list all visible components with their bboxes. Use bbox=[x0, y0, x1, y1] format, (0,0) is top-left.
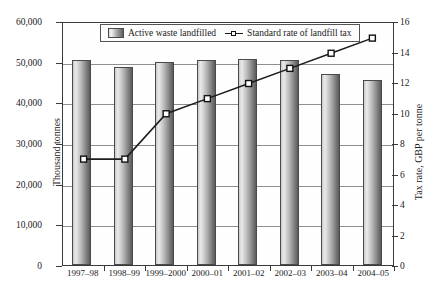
y2-axis-tick-label: 4 bbox=[400, 200, 430, 210]
bar-swatch-icon bbox=[108, 28, 124, 38]
y-axis-tick-mark bbox=[56, 225, 62, 226]
y-axis-tick-label: 50,000 bbox=[0, 58, 42, 68]
y2-axis-tick-label: 12 bbox=[400, 78, 430, 88]
y2-axis-tick-mark bbox=[392, 114, 398, 115]
y-axis-tick-label: 60,000 bbox=[0, 17, 42, 27]
line-marker bbox=[287, 65, 293, 71]
y-axis-tick-label: 40,000 bbox=[0, 98, 42, 108]
y-axis-tick-label: 30,000 bbox=[0, 139, 42, 149]
y2-axis-tick-label: 6 bbox=[400, 170, 430, 180]
x-axis-tick-mark bbox=[394, 266, 395, 271]
y2-axis-tick-mark bbox=[392, 236, 398, 237]
y-axis-tick-mark bbox=[56, 144, 62, 145]
line-square-icon bbox=[225, 29, 243, 37]
y2-axis-tick-label: 8 bbox=[400, 139, 430, 149]
y2-axis-tick-label: 16 bbox=[400, 17, 430, 27]
y2-axis-tick-mark bbox=[392, 83, 398, 84]
line-marker bbox=[163, 111, 169, 117]
legend-label-line: Standard rate of landfill tax bbox=[247, 28, 351, 38]
chart-legend: Active waste landfilled Standard rate of… bbox=[100, 24, 360, 42]
y2-axis-tick-label: 10 bbox=[400, 109, 430, 119]
line-marker bbox=[369, 35, 375, 41]
y2-axis-tick-mark bbox=[392, 175, 398, 176]
line-marker bbox=[204, 96, 210, 102]
y2-axis-tick-mark bbox=[392, 266, 398, 267]
y2-axis-tick-mark bbox=[392, 205, 398, 206]
y-axis-tick-mark bbox=[56, 63, 62, 64]
line-marker bbox=[122, 156, 128, 162]
y2-axis-tick-mark bbox=[392, 53, 398, 54]
y-axis-title: Thousand tonnes bbox=[51, 52, 62, 252]
y-axis-tick-mark bbox=[56, 266, 62, 267]
y-axis-tick-mark bbox=[56, 22, 62, 23]
legend-item-bar: Active waste landfilled bbox=[108, 28, 216, 38]
line-marker bbox=[246, 81, 252, 87]
y2-axis-tick-label: 2 bbox=[400, 231, 430, 241]
y2-axis-tick-label: 14 bbox=[400, 48, 430, 58]
line-marker bbox=[328, 50, 334, 56]
line-marker bbox=[81, 156, 87, 162]
y2-axis-tick-mark bbox=[392, 144, 398, 145]
landfill-chart: Thousand tonnes Tax rate, GBP per tonne … bbox=[0, 0, 440, 303]
x-axis-tick-label: 2004–05 bbox=[341, 268, 405, 278]
y-axis-tick-mark bbox=[56, 103, 62, 104]
legend-item-line: Standard rate of landfill tax bbox=[225, 28, 351, 38]
y-axis-tick-label: 20,000 bbox=[0, 180, 42, 190]
line-series bbox=[63, 23, 393, 265]
plot-area bbox=[62, 22, 394, 266]
y-axis-tick-label: 10,000 bbox=[0, 220, 42, 230]
y2-axis-tick-mark bbox=[392, 22, 398, 23]
y-axis-tick-mark bbox=[56, 185, 62, 186]
legend-label-bar: Active waste landfilled bbox=[128, 28, 216, 38]
y-axis-tick-label: 0 bbox=[0, 261, 42, 271]
